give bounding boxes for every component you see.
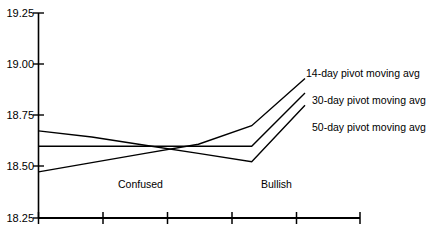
- y-axis-label-18-50: 18.50: [0, 161, 34, 172]
- series-line-14-day-pivot-moving-avg: [39, 79, 306, 172]
- chart-container: 19.25 19.00 18.75 18.50 18.25 14-day piv…: [0, 0, 432, 245]
- series-label-50-day: 50-day pivot moving avg: [312, 122, 426, 133]
- data-series-group: [39, 79, 306, 172]
- series-label-30-day: 30-day pivot moving avg: [312, 95, 426, 106]
- annotation-confused: Confused: [118, 179, 163, 190]
- y-axis-label-19-00: 19.00: [0, 59, 34, 70]
- y-axis-label-18-25: 18.25: [0, 213, 34, 224]
- series-line-30-day-pivot-moving-avg: [39, 93, 306, 146]
- y-axis-label-19-25: 19.25: [0, 8, 34, 19]
- y-axis-label-18-75: 18.75: [0, 110, 34, 121]
- annotation-bullish: Bullish: [261, 179, 292, 190]
- series-label-14-day: 14-day pivot moving avg: [306, 68, 420, 79]
